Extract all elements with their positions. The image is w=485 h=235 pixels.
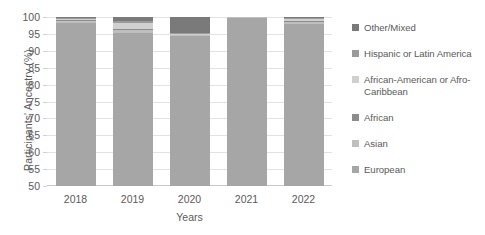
legend-item[interactable]: African — [352, 112, 485, 124]
y-axis-tick — [43, 17, 47, 18]
y-axis-tick — [43, 51, 47, 52]
legend-label: Hispanic or Latin America — [364, 48, 472, 60]
legend-label: European — [364, 164, 405, 176]
y-axis-tick-label: 60 — [28, 146, 40, 158]
bar-column[interactable]: 2022 — [284, 17, 324, 186]
y-axis-tick — [43, 102, 47, 103]
y-axis-tick-label: 100 — [22, 11, 40, 23]
y-axis-tick — [43, 118, 47, 119]
legend-label: African — [364, 112, 394, 124]
legend-label: Other/Mixed — [364, 22, 416, 34]
y-axis-tick-label: 50 — [28, 180, 40, 192]
bar-segment[interactable] — [170, 36, 210, 186]
y-axis-tick-label: 95 — [28, 28, 40, 40]
bar-column[interactable]: 2018 — [56, 17, 96, 186]
stacked-bar-chart: Participants' Ancestry (%) 5055606570758… — [0, 0, 485, 235]
bar-segment[interactable] — [170, 17, 210, 33]
y-axis-tick-label: 80 — [28, 79, 40, 91]
bar-segment[interactable] — [227, 18, 267, 186]
x-axis-tick-label: 2019 — [113, 193, 153, 205]
y-axis-tick-label: 75 — [28, 96, 40, 108]
y-axis-tick — [43, 34, 47, 35]
legend-item[interactable]: Hispanic or Latin America — [352, 48, 485, 60]
legend-label: African-American or Afro-Caribbean — [364, 74, 485, 97]
y-axis-tick — [43, 152, 47, 153]
x-axis-title: Years — [47, 211, 332, 223]
y-axis-tick — [43, 135, 47, 136]
legend-swatch-icon — [352, 76, 359, 83]
legend-item[interactable]: Other/Mixed — [352, 22, 485, 34]
legend-swatch-icon — [352, 24, 359, 31]
bar-segment[interactable] — [56, 23, 96, 186]
legend-label: Asian — [364, 138, 388, 150]
bar-segment[interactable] — [113, 33, 153, 186]
y-axis-tick — [43, 85, 47, 86]
x-axis-tick-label: 2018 — [56, 193, 96, 205]
bar-column[interactable]: 2019 — [113, 17, 153, 186]
bar-column[interactable]: 2021 — [227, 17, 267, 186]
y-axis-tick-label: 70 — [28, 112, 40, 124]
legend-item[interactable]: Asian — [352, 138, 485, 150]
plot-area: 5055606570758085909510020182019202020212… — [47, 17, 332, 186]
y-axis-tick-label: 65 — [28, 129, 40, 141]
legend-swatch-icon — [352, 114, 359, 121]
legend-item[interactable]: African-American or Afro-Caribbean — [352, 74, 485, 97]
y-axis-tick — [43, 169, 47, 170]
x-axis-tick-label: 2022 — [284, 193, 324, 205]
y-axis-tick-label: 85 — [28, 62, 40, 74]
chart-legend: Other/MixedHispanic or Latin AmericaAfri… — [352, 22, 485, 190]
y-axis-tick-label: 90 — [28, 45, 40, 57]
y-axis-tick-label: 55 — [28, 163, 40, 175]
x-axis-tick-label: 2020 — [170, 193, 210, 205]
legend-swatch-icon — [352, 166, 359, 173]
y-axis-tick — [43, 68, 47, 69]
bar-segment[interactable] — [284, 24, 324, 186]
bar-column[interactable]: 2020 — [170, 17, 210, 186]
legend-swatch-icon — [352, 140, 359, 147]
y-axis-tick — [43, 186, 47, 187]
legend-item[interactable]: European — [352, 164, 485, 176]
legend-swatch-icon — [352, 50, 359, 57]
x-axis-tick-label: 2021 — [227, 193, 267, 205]
